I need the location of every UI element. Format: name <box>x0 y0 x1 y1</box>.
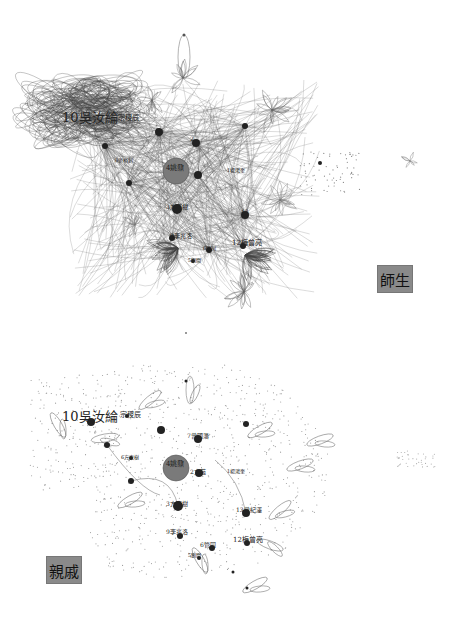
edges <box>9 34 417 309</box>
node-label: 7曾國藩 <box>187 433 209 439</box>
node-label: 1楊鴻奎 <box>227 168 245 173</box>
network-panel-relatives: 親戚 10吳汝綸宗稷辰7曾國藩4姚鼐2方苞1楊鴻奎6方東樹3方東樹13曾紀澤9李… <box>0 320 455 637</box>
node-label: 13 <box>241 209 249 215</box>
node-label: 12梅曾亮 <box>232 240 262 247</box>
node-label: 10吳汝綸 <box>62 410 118 423</box>
node-label: 2方苞 <box>190 469 206 475</box>
node-label: 2 <box>190 136 194 142</box>
node-label: 4姚鼐 <box>166 461 184 468</box>
node-label: 9李兆洛 <box>170 233 192 239</box>
node-label: 13曾紀澤 <box>236 507 262 513</box>
node-label: 6方東樹 <box>121 455 139 460</box>
node-label: 6管同 <box>200 542 216 548</box>
node-label: 8張裕釗 <box>115 158 133 163</box>
dots <box>30 332 436 595</box>
node-label: 12梅曾亮 <box>233 537 263 544</box>
network-panel-teacher-student: 師生 10吳汝綸宗稷辰4姚鼐21楊鴻奎3方東樹139李兆洛12梅曾亮6管同5劉開… <box>0 0 455 320</box>
node-label: 宗稷辰 <box>118 115 139 122</box>
node-label: 3方東樹 <box>166 501 188 507</box>
network-graph-relatives <box>0 320 455 637</box>
node-label: 3方東樹 <box>166 204 188 210</box>
node-label: 6管同 <box>203 246 216 251</box>
panel-tag-relatives: 親戚 <box>46 556 82 584</box>
node-label: 5劉開 <box>188 553 201 558</box>
node-label: 1楊鴻奎 <box>227 469 245 474</box>
node-label: 5劉開 <box>188 258 201 263</box>
node-label: 4姚鼐 <box>166 165 184 172</box>
node-label: 9李兆洛 <box>166 529 188 535</box>
panel-tag-teacher-student: 師生 <box>377 265 413 293</box>
node-label: 10吳汝綸 <box>62 111 118 124</box>
hub-node <box>163 455 189 481</box>
node-label: 宗稷辰 <box>120 412 141 419</box>
